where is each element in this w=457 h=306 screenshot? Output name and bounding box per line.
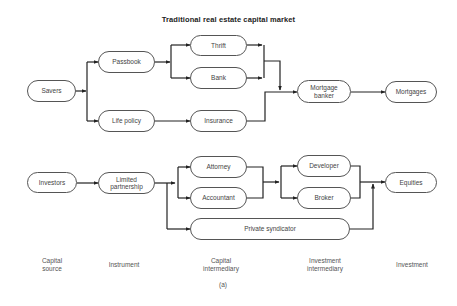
column-label-capital-intermediary: Capital intermediary — [203, 257, 239, 272]
node-limited-partnership: Limited partnership — [98, 172, 155, 194]
node-savers: Savers — [27, 80, 76, 102]
node-bank: Bank — [190, 67, 247, 89]
node-thrift: Thrift — [190, 35, 247, 56]
node-investors: Investors — [27, 172, 77, 193]
column-label-investment-intermediary: Investment intermediary — [307, 257, 343, 272]
column-label-investment: Investment — [396, 261, 428, 269]
node-private-syndicator: Private syndicator — [190, 218, 350, 240]
node-life-policy: Life policy — [98, 110, 155, 132]
node-mortgages: Mortgages — [385, 81, 437, 103]
node-attorney: Attorney — [190, 156, 247, 178]
node-mortgage-banker: Mortgage banker — [297, 80, 351, 103]
column-label-capital-source: Capital source — [42, 257, 62, 272]
node-developer: Developer — [297, 155, 351, 177]
node-passbook: Passbook — [98, 51, 155, 73]
column-label-instrument: Instrument — [109, 261, 140, 269]
node-insurance: Insurance — [190, 110, 247, 132]
figure-caption: (a) — [219, 281, 227, 288]
node-broker: Broker — [297, 187, 351, 209]
node-accountant: Accountant — [190, 187, 247, 209]
node-equities: Equities — [385, 172, 437, 193]
